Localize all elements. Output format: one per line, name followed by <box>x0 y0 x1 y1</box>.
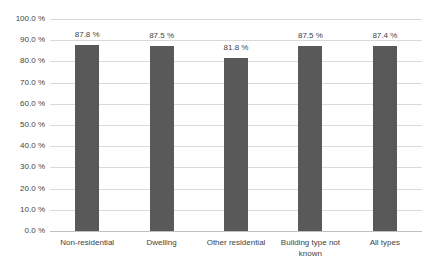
bar-non-residential <box>75 45 99 231</box>
bar-building-type-not-known <box>298 46 322 232</box>
y-tick-label: 50.0 % <box>0 120 45 130</box>
bar-slot-non-residential: 87.8 % <box>50 19 124 231</box>
bar-dwelling <box>150 46 174 232</box>
bar-value-label: 87.5 % <box>124 31 198 40</box>
x-category-label-other-residential: Other residential <box>199 237 273 248</box>
x-axis: Non-residentialDwellingOther residential… <box>50 237 422 259</box>
bar-other-residential <box>224 58 248 231</box>
x-category-label-building-type-not-known: Building type not known <box>273 237 347 259</box>
plot-area: 87.8 %87.5 %81.8 %87.5 %87.4 % <box>50 19 422 231</box>
bar-series: 87.8 %87.5 %81.8 %87.5 %87.4 % <box>50 19 422 231</box>
x-category-label-all-types: All types <box>348 237 422 248</box>
bar-all-types <box>373 46 397 231</box>
y-tick-label: 20.0 % <box>0 184 45 194</box>
y-axis: 100.0 %90.0 %80.0 %70.0 %60.0 %50.0 %40.… <box>0 0 45 263</box>
bar-value-label: 87.5 % <box>273 31 347 40</box>
y-tick-label: 80.0 % <box>0 56 45 66</box>
bar-value-label: 87.8 % <box>50 30 124 39</box>
y-tick-label: 70.0 % <box>0 78 45 88</box>
y-tick-label: 30.0 % <box>0 162 45 172</box>
y-tick-label: 10.0 % <box>0 205 45 215</box>
x-category-label-non-residential: Non-residential <box>50 237 124 248</box>
y-tick-label: 40.0 % <box>0 141 45 151</box>
y-tick-label: 90.0 % <box>0 35 45 45</box>
bar-slot-all-types: 87.4 % <box>348 19 422 231</box>
bar-slot-other-residential: 81.8 % <box>199 19 273 231</box>
bar-value-label: 87.4 % <box>348 31 422 40</box>
y-tick-label: 0.0 % <box>0 226 45 236</box>
bar-slot-building-type-not-known: 87.5 % <box>273 19 347 231</box>
bar-slot-dwelling: 87.5 % <box>124 19 198 231</box>
y-tick-label: 60.0 % <box>0 99 45 109</box>
bar-value-label: 81.8 % <box>199 43 273 52</box>
x-axis-line <box>50 231 422 232</box>
x-category-label-dwelling: Dwelling <box>124 237 198 248</box>
y-tick-label: 100.0 % <box>0 14 45 24</box>
bar-chart: 100.0 %90.0 %80.0 %70.0 %60.0 %50.0 %40.… <box>0 0 433 263</box>
